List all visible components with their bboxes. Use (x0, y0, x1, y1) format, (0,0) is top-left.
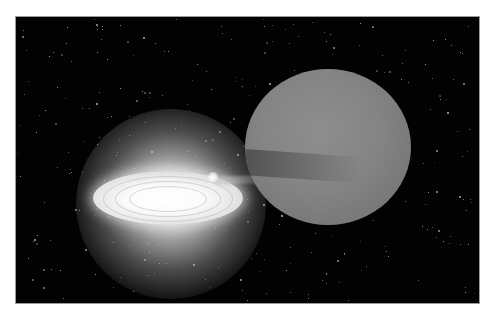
star (69, 173, 70, 174)
star (290, 292, 291, 293)
star (99, 92, 100, 93)
star (294, 70, 295, 71)
star (433, 40, 434, 41)
star (463, 199, 464, 200)
star (33, 241, 34, 242)
star (192, 80, 193, 81)
star (266, 293, 267, 294)
star (471, 202, 472, 203)
star (286, 270, 287, 271)
star (249, 95, 250, 96)
star (266, 42, 268, 44)
star (289, 43, 290, 44)
star (211, 89, 212, 90)
star (298, 36, 299, 37)
star (107, 59, 108, 60)
star (285, 29, 286, 30)
star (450, 236, 451, 237)
star (113, 287, 114, 288)
star (136, 100, 138, 102)
image-frame (15, 16, 480, 304)
star (469, 129, 470, 130)
star (231, 39, 232, 40)
star (129, 116, 130, 117)
star (255, 86, 256, 87)
star (49, 56, 50, 57)
star (382, 55, 383, 56)
star (233, 118, 235, 120)
star (339, 282, 340, 283)
star (187, 104, 188, 105)
star (57, 167, 58, 168)
star (474, 293, 475, 294)
star (451, 45, 452, 46)
star (457, 131, 458, 132)
star (333, 47, 335, 49)
star (326, 274, 327, 275)
star (53, 52, 54, 53)
star (449, 243, 450, 244)
star (143, 37, 145, 39)
star (236, 81, 237, 82)
star (144, 92, 146, 94)
star (247, 300, 248, 301)
star (120, 88, 121, 89)
star (408, 82, 409, 83)
star (133, 55, 134, 56)
star (373, 220, 374, 221)
star (99, 137, 100, 138)
star (281, 215, 283, 217)
star (96, 103, 98, 105)
star (468, 244, 469, 245)
star (242, 79, 243, 80)
disk-ring (129, 186, 207, 212)
star (264, 52, 266, 54)
star (206, 71, 207, 72)
star (385, 246, 386, 247)
star (438, 230, 440, 232)
star (230, 122, 231, 123)
star (436, 150, 438, 152)
companion-star (245, 69, 411, 225)
star (264, 259, 265, 260)
star (290, 247, 291, 248)
star (401, 79, 402, 80)
star (405, 50, 406, 51)
star (65, 98, 66, 99)
star (459, 196, 461, 198)
star (197, 64, 198, 65)
star (447, 112, 449, 114)
star (423, 163, 424, 164)
star (162, 95, 163, 96)
star (322, 280, 323, 281)
star (434, 162, 435, 163)
star (96, 24, 98, 26)
companion-dark-band (245, 149, 362, 183)
star (418, 280, 419, 281)
star (440, 99, 441, 100)
star (411, 158, 412, 159)
star (269, 83, 271, 85)
star (465, 292, 466, 293)
star (240, 279, 242, 281)
star (67, 27, 68, 28)
star (279, 224, 280, 225)
star (66, 43, 67, 44)
star (57, 87, 58, 88)
star (372, 26, 374, 28)
star (272, 41, 273, 42)
star (326, 283, 327, 284)
star (24, 94, 25, 95)
star (20, 176, 21, 177)
star (337, 260, 339, 262)
star (388, 256, 389, 257)
star (470, 199, 471, 200)
star (61, 54, 63, 56)
star (43, 287, 45, 289)
star (36, 243, 38, 245)
star (55, 123, 57, 125)
star (26, 50, 27, 51)
star (97, 29, 98, 30)
star (330, 34, 331, 35)
star (107, 117, 108, 118)
